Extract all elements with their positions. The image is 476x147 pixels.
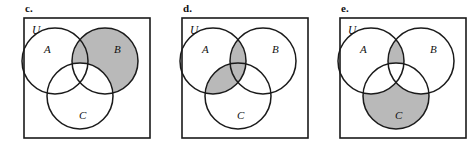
shaded-region-b-minus-c: [24, 18, 150, 138]
set-label-a-d: A: [201, 43, 209, 55]
set-label-a-e: A: [359, 43, 367, 55]
universe-label-e: U: [348, 24, 357, 36]
venn-diagram-row: c. U A B C d.: [0, 0, 476, 147]
venn-figure-d: d. U A B C: [158, 0, 316, 147]
set-label-b-e: B: [430, 43, 437, 55]
part-label-d: d.: [183, 2, 192, 14]
set-label-b-c: B: [114, 43, 121, 55]
venn-svg-e: U A B C: [316, 16, 474, 144]
set-label-c-c: C: [79, 109, 87, 121]
set-label-c-d: C: [237, 109, 245, 121]
venn-svg-c: U A B C: [0, 16, 158, 144]
set-label-c-e: C: [395, 109, 403, 121]
venn-figure-c: c. U A B C: [0, 0, 158, 147]
universe-label-d: U: [190, 24, 199, 36]
venn-svg-d: U A B C: [158, 16, 316, 144]
set-label-b-d: B: [272, 43, 279, 55]
part-label-c: c.: [25, 2, 33, 14]
venn-figure-e: e.: [316, 0, 474, 147]
part-label-e: e.: [341, 2, 349, 14]
universe-label-c: U: [32, 24, 41, 36]
shaded-region-c-only: [340, 18, 466, 138]
set-label-a-c: A: [43, 43, 51, 55]
